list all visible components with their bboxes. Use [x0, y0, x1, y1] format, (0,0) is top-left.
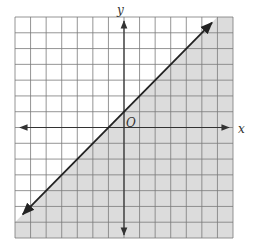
y-axis-label: y	[116, 3, 124, 17]
origin-label: O	[126, 116, 136, 130]
x-axis-label: x	[238, 122, 245, 136]
coordinate-graph: y x O	[0, 0, 253, 248]
